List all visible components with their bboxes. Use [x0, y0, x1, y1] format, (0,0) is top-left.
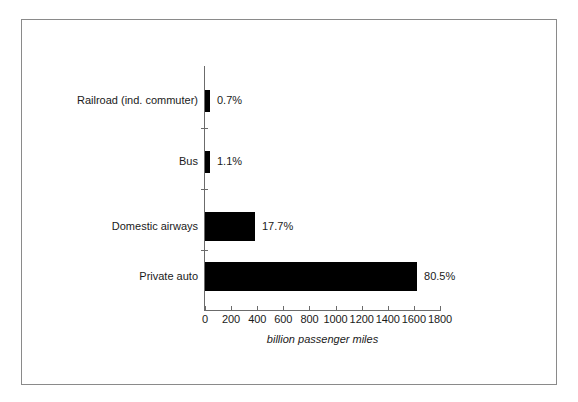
x-axis-tick [362, 306, 363, 311]
category-label: Railroad (ind. commuter) [8, 94, 198, 106]
category-label: Private auto [8, 270, 198, 282]
bar [205, 262, 417, 291]
x-axis-spine [204, 310, 441, 311]
x-axis-tick [283, 306, 284, 311]
bar-value-label: 80.5% [424, 270, 455, 282]
bar-value-label: 17.7% [262, 220, 293, 232]
x-axis-title: billion passenger miles [204, 333, 441, 345]
x-axis-tick [440, 306, 441, 311]
x-axis-tick-label: 1800 [420, 313, 460, 325]
y-axis-category-tick [201, 250, 208, 251]
category-label: Bus [8, 155, 198, 167]
bar [205, 151, 210, 173]
x-axis-tick [231, 306, 232, 311]
y-axis-category-tick [201, 189, 208, 190]
x-axis-tick [388, 306, 389, 311]
bar-chart-plot-area: Railroad (ind. commuter)0.7%Bus1.1%Domes… [0, 0, 578, 402]
x-axis-tick [414, 306, 415, 311]
x-axis-tick [309, 306, 310, 311]
x-axis-tick [205, 306, 206, 311]
y-axis-category-tick [201, 128, 208, 129]
bar [205, 212, 255, 241]
x-axis-tick [257, 306, 258, 311]
x-axis-tick [336, 306, 337, 311]
bar [205, 90, 210, 112]
category-label: Domestic airways [8, 220, 198, 232]
bar-value-label: 0.7% [217, 94, 242, 106]
bar-value-label: 1.1% [217, 155, 242, 167]
